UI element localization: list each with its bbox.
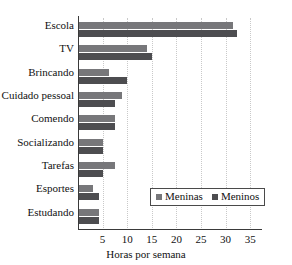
- bar-chart: EscolaTVBrincandoCuidado pessoalComendoS…: [0, 0, 292, 265]
- bar-meninos: [78, 193, 99, 200]
- x-tick-label: 5: [100, 233, 106, 245]
- cropped-title-fragment: [0, 0, 292, 7]
- bar-meninos: [78, 147, 103, 154]
- bar-meninos: [78, 30, 237, 37]
- x-axis-title: Horas por semana: [0, 248, 292, 260]
- bar-meninas: [78, 45, 147, 52]
- bar-group: [78, 207, 260, 230]
- bar-group: [78, 137, 260, 160]
- bar-meninas: [78, 209, 99, 216]
- x-tick-label: 25: [195, 233, 206, 245]
- legend-label: Meninos: [221, 191, 260, 202]
- bar-group: [78, 160, 260, 183]
- legend[interactable]: MeninasMeninos: [150, 188, 265, 206]
- x-tick-label: 10: [122, 233, 133, 245]
- bar-group: [78, 43, 260, 66]
- bar-meninas: [78, 92, 122, 99]
- bar-meninas: [78, 139, 103, 146]
- y-axis-line: [78, 16, 79, 230]
- bar-meninas: [78, 185, 93, 192]
- bar-meninas: [78, 22, 233, 29]
- legend-item-meninas[interactable]: Meninas: [156, 191, 203, 202]
- bar-group: [78, 113, 260, 136]
- bar-meninas: [78, 115, 115, 122]
- y-tick-label: Brincando: [0, 67, 74, 78]
- y-axis-tick-labels: EscolaTVBrincandoCuidado pessoalComendoS…: [0, 18, 74, 228]
- x-tick-label: 20: [171, 233, 182, 245]
- bar-meninas: [78, 69, 109, 76]
- y-tick-label: TV: [0, 43, 74, 54]
- bar-group: [78, 20, 260, 43]
- y-tick-label: Tarefas: [0, 160, 74, 171]
- bar-meninas: [78, 162, 115, 169]
- x-axis-line: [78, 229, 262, 230]
- bar-meninos: [78, 100, 115, 107]
- legend-swatch-icon: [156, 194, 162, 200]
- bar-meninos: [78, 170, 103, 177]
- y-tick-label: Escola: [0, 20, 74, 31]
- bar-group: [78, 67, 260, 90]
- x-axis-tick-labels: 5101520253035: [0, 233, 292, 249]
- bar-meninos: [78, 123, 115, 130]
- bar-group: [78, 90, 260, 113]
- legend-swatch-icon: [212, 194, 218, 200]
- y-tick-label: Socializando: [0, 137, 74, 148]
- bar-meninos: [78, 53, 152, 60]
- x-tick-label: 15: [146, 233, 157, 245]
- x-tick-label: 35: [245, 233, 256, 245]
- y-tick-label: Estudando: [0, 207, 74, 218]
- y-tick-label: Esportes: [0, 183, 74, 194]
- bar-meninos: [78, 77, 127, 84]
- x-tick-label: 30: [220, 233, 231, 245]
- y-tick-label: Comendo: [0, 113, 74, 124]
- legend-label: Meninas: [165, 191, 203, 202]
- legend-item-meninos[interactable]: Meninos: [212, 191, 260, 202]
- y-tick-label: Cuidado pessoal: [0, 90, 74, 101]
- bar-meninos: [78, 217, 99, 224]
